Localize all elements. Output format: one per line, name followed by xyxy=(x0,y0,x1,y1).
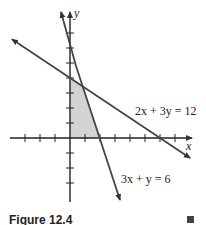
line-3x-plus-y-eq-6 xyxy=(61,12,76,66)
x-axis-label: x xyxy=(185,139,192,153)
figure-caption: Figure 12.4 xyxy=(9,213,72,225)
y-axis-label: y xyxy=(73,6,80,20)
end-of-example-square-icon xyxy=(187,216,194,223)
line-2x-plus-3y-eq-12 xyxy=(12,39,60,71)
line-label-2x-3y: 2x + 3y = 12 xyxy=(135,104,197,118)
line-label-3x-y: 3x + y = 6 xyxy=(121,172,171,186)
feasible-region-diagram: y x 2x + 3y = 12 3x + y = 6 xyxy=(0,0,206,225)
